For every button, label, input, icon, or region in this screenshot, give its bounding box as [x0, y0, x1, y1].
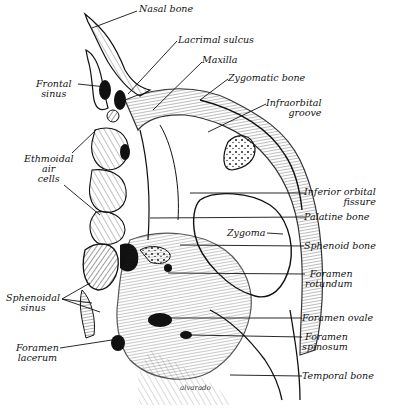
foramen-ovale-hole: [148, 313, 172, 327]
label-foramen-rotundum: Foramen rotundum: [305, 269, 353, 289]
label-lacrimal-sulcus: Lacrimal sulcus: [178, 35, 254, 45]
label-zygoma: Zygoma: [227, 228, 265, 238]
label-sphenoidal-sinus: Sphenoidal sinus: [6, 293, 60, 313]
label-zygomatic-bone: Zygomatic bone: [228, 73, 305, 83]
sphenoid-bone-shape: [117, 233, 251, 379]
ethmoidal-air-cells-shape: [90, 128, 130, 244]
label-infraorbital-groove: Infraorbital groove: [266, 98, 322, 118]
anatomy-figure: Nasal bone Lacrimal sulcus Maxilla Zygom…: [0, 0, 410, 410]
label-temporal-bone: Temporal bone: [302, 371, 374, 381]
label-ethmoidal-air-cells: Ethmoidal air cells: [24, 154, 73, 184]
nasal-bone-shape: [85, 14, 150, 96]
foramen-lacerum-hole: [111, 335, 125, 351]
label-sphenoid-bone: Sphenoid bone: [304, 241, 376, 251]
label-maxilla: Maxilla: [202, 55, 238, 65]
label-foramen-ovale: Foramen ovale: [302, 313, 373, 323]
label-palatine-bone: Palatine bone: [304, 212, 370, 222]
artist-signature: alvarado: [180, 384, 211, 392]
label-frontal-sinus: Frontal sinus: [36, 79, 72, 99]
label-foramen-spinosum: Foramen spinosum: [302, 332, 348, 352]
label-inferior-orbital-fissure: Inferior orbital fissure: [304, 187, 376, 207]
label-foramen-lacerum: Foramen lacerum: [16, 343, 59, 363]
label-nasal-bone: Nasal bone: [139, 4, 193, 14]
